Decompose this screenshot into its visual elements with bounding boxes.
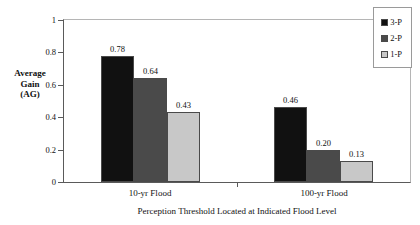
y-axis-tick-label: 0.2 (45, 145, 56, 155)
bar-slot: 0.78 (101, 20, 134, 182)
bar[interactable] (134, 78, 167, 182)
bar-slot: 0.20 (307, 20, 340, 182)
legend-item-label: 3-P (390, 17, 402, 27)
bar-slot: 0.43 (167, 20, 200, 182)
bar-group: 0.780.640.43 (64, 20, 237, 182)
legend: 3-P2-P1-P (373, 7, 412, 68)
legend-item-label: 1-P (390, 49, 402, 59)
bar-value-label: 0.43 (176, 100, 191, 110)
y-axis-tick-mark (58, 182, 64, 183)
bar-group-bars: 0.780.640.43 (64, 20, 237, 182)
y-axis-tick-label: 0.8 (45, 47, 56, 57)
legend-swatch-icon (381, 35, 388, 42)
x-axis-title: Perception Threshold Located at Indicate… (63, 206, 411, 216)
bar-value-label: 0.46 (283, 95, 298, 105)
legend-item[interactable]: 3-P (381, 17, 402, 27)
x-axis-group-separator-tick (237, 182, 238, 187)
bar[interactable] (101, 56, 134, 182)
bar-value-label: 0.64 (143, 66, 158, 76)
bar[interactable] (307, 150, 340, 182)
bar[interactable] (274, 107, 307, 182)
bar-value-label: 0.13 (349, 149, 364, 159)
y-axis-tick-label: 1 (52, 15, 56, 25)
bar-chart: Average Gain (AG) 00.20.40.60.81 0.780.6… (0, 0, 420, 225)
legend-item[interactable]: 1-P (381, 49, 402, 59)
bar[interactable] (340, 161, 373, 182)
x-axis-category-labels: 10-yr Flood100-yr Flood (63, 188, 411, 198)
plot-area: 00.20.40.60.81 0.780.640.430.460.200.13 (63, 19, 411, 183)
y-axis-tick-label: 0.6 (45, 80, 56, 90)
legend-item-label: 2-P (390, 33, 402, 43)
y-axis-tick-label: 0.4 (45, 112, 56, 122)
bar-slot: 0.13 (340, 20, 373, 182)
bar-value-label: 0.20 (316, 138, 331, 148)
legend-item[interactable]: 2-P (381, 33, 402, 43)
y-axis-title-line-1: Average (2, 68, 58, 79)
y-axis-tick-label: 0 (52, 177, 56, 187)
legend-swatch-icon (381, 51, 388, 58)
x-axis-category-label: 100-yr Flood (237, 188, 411, 198)
x-axis-category-label: 10-yr Flood (63, 188, 237, 198)
legend-swatch-icon (381, 19, 388, 26)
bar-groups: 0.780.640.430.460.200.13 (64, 20, 410, 182)
bar[interactable] (167, 112, 200, 182)
bar-value-label: 0.78 (110, 44, 125, 54)
bar-slot: 0.64 (134, 20, 167, 182)
y-axis-title-line-3: (AG) (2, 89, 58, 100)
plot-inner: 00.20.40.60.81 0.780.640.430.460.200.13 (64, 20, 410, 182)
bar-slot: 0.46 (274, 20, 307, 182)
